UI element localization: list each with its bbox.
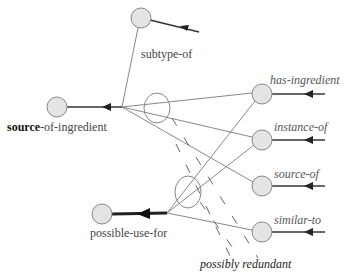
node-source-of[interactable] (252, 176, 272, 196)
label-source-of: source-of (274, 168, 319, 180)
node-subtype[interactable] (131, 8, 151, 28)
label-subtype-of: subtype-of (141, 48, 192, 60)
label-has-ingredient: has-ingredient (270, 74, 340, 86)
node-has-ingredient[interactable] (252, 84, 272, 104)
source-of-ingredient-arrowhead-icon (102, 103, 111, 111)
possibly-redundant-dashes (172, 118, 258, 260)
right-incoming-arrows (272, 94, 325, 232)
diagram-canvas (0, 0, 344, 279)
label-possibly-redundant: possibly redundant (200, 258, 291, 270)
label-similar-to: similar-to (274, 214, 321, 226)
grouping-ellipse-lower (175, 176, 201, 208)
node-similar-to[interactable] (252, 222, 272, 242)
grouping-ellipse-upper (144, 93, 170, 123)
label-of-ingredient: -of-ingredient (40, 120, 107, 134)
node-instance-of[interactable] (252, 130, 272, 150)
label-possible-use-for: possible-use-for (90, 227, 167, 239)
possible-use-for-arrowhead-icon (137, 208, 150, 219)
subtype-arrow (150, 20, 199, 32)
node-source-of-ingredient[interactable] (47, 97, 67, 117)
label-source-bold: source (7, 120, 40, 134)
node-possible-use-for[interactable] (92, 204, 112, 224)
label-source-of-ingredient: source-of-ingredient (7, 121, 107, 133)
label-instance-of: instance-of (274, 121, 327, 133)
